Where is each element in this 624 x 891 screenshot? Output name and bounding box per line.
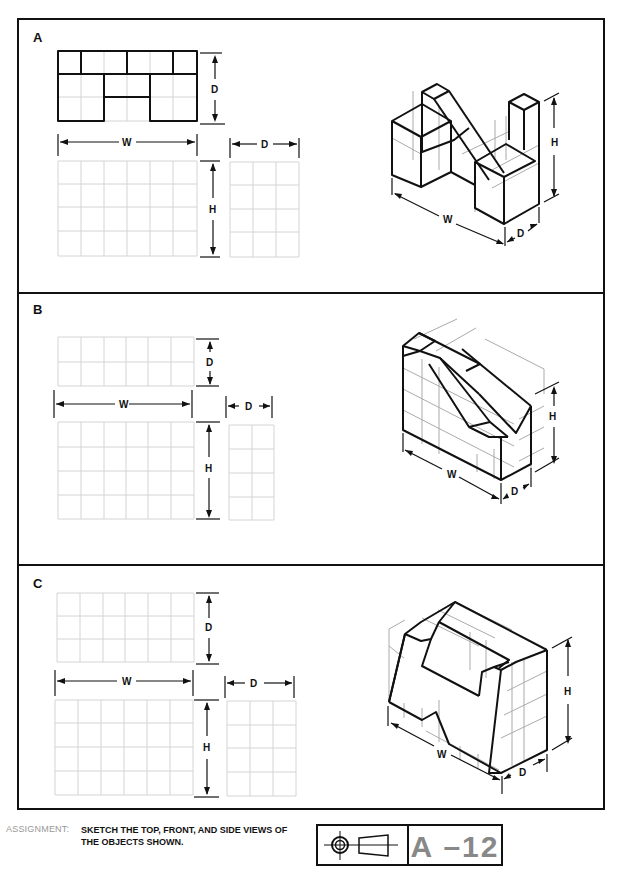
panel-b-drawing: D W D H — [19, 294, 603, 564]
top-view-grid — [57, 593, 194, 662]
svg-text:H: H — [205, 463, 212, 474]
title-block: ASSIGNMENT: SKETCH THE TOP, FRONT, AND S… — [0, 818, 624, 891]
front-view-grid — [58, 161, 197, 256]
svg-text:H: H — [209, 204, 216, 215]
sheet-number-box: A –12 — [407, 824, 503, 866]
third-angle-projection-icon — [318, 826, 408, 866]
panel-b: B — [19, 292, 603, 564]
side-view-grid — [229, 425, 274, 520]
drawing-sheet: A — [17, 18, 605, 810]
panel-c: C — [19, 564, 603, 810]
svg-text:D: D — [517, 228, 524, 239]
svg-text:D: D — [211, 84, 218, 95]
svg-text:W: W — [122, 137, 132, 148]
svg-text:W: W — [443, 214, 453, 225]
svg-text:H: H — [203, 742, 210, 753]
svg-text:W: W — [447, 469, 457, 480]
panel-a-drawing: D W D H — [19, 20, 603, 292]
side-view-grid — [230, 162, 299, 257]
svg-text:H: H — [564, 686, 571, 697]
front-view-grid — [55, 700, 193, 795]
svg-text:D: D — [250, 678, 257, 689]
panel-a: A — [19, 20, 603, 292]
assignment-label: ASSIGNMENT: — [6, 824, 69, 834]
svg-text:D: D — [206, 357, 213, 368]
svg-text:W: W — [122, 676, 132, 687]
svg-text:D: D — [519, 767, 526, 778]
svg-text:D: D — [261, 139, 268, 150]
svg-text:D: D — [205, 622, 212, 633]
top-view-grid — [58, 337, 194, 386]
front-view-grid — [58, 422, 194, 519]
dimension-lines — [58, 53, 299, 257]
arrowheads — [60, 55, 297, 255]
svg-text:W: W — [119, 399, 129, 410]
isometric-object-a: H W D — [392, 84, 559, 246]
panel-c-drawing: D W D H — [19, 566, 603, 812]
svg-text:H: H — [549, 411, 556, 422]
projection-symbol-box — [316, 824, 409, 866]
svg-text:W: W — [437, 749, 447, 760]
assignment-text: SKETCH THE TOP, FRONT, AND SIDE VIEWS OF… — [81, 824, 287, 848]
svg-text:D: D — [511, 486, 518, 497]
isometric-object-b: H W D — [403, 319, 559, 504]
side-view-grid — [227, 701, 296, 796]
isometric-object-c: H W D — [388, 602, 572, 794]
svg-text:D: D — [245, 401, 252, 412]
svg-text:H: H — [551, 137, 558, 148]
sheet-number: A –12 — [409, 830, 501, 864]
